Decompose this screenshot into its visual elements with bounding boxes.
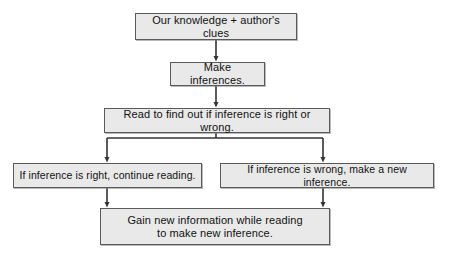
flowchart-node-read-to-find-out: Read to find out if inference is right o… (104, 108, 330, 133)
flowchart-node-read-to-find-out-label: Read to find out if inference is right o… (105, 108, 329, 134)
flowchart-node-source: Our knowledge + author's clues (135, 13, 297, 40)
flowchart-node-gain-new-information: Gain new information while reading to ma… (100, 208, 330, 245)
flowchart-canvas: Our knowledge + author's clues Make infe… (0, 0, 450, 255)
flowchart-node-inference-right-label: If inference is right, continue reading. (15, 169, 199, 181)
flowchart-node-make-inferences: Make inferences. (170, 62, 265, 86)
flowchart-node-inference-wrong-label: If inference is wrong, make a new infere… (221, 163, 433, 188)
flowchart-node-inference-wrong: If inference is wrong, make a new infere… (220, 163, 434, 188)
flowchart-node-source-label: Our knowledge + author's clues (136, 14, 296, 40)
flowchart-node-gain-new-information-label: Gain new information while reading to ma… (123, 214, 306, 240)
edge-read-to-branch-bus (107, 133, 323, 138)
flowchart-node-make-inferences-label: Make inferences. (171, 61, 264, 87)
flowchart-node-inference-right: If inference is right, continue reading. (13, 163, 202, 188)
